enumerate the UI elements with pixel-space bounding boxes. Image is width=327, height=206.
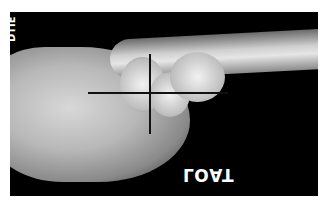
xray-panel: DTIE LOAT [10, 12, 318, 196]
crosshair-vertical [149, 54, 151, 134]
crosshair-horizontal [88, 92, 228, 94]
side-label: DTIE [10, 16, 17, 42]
position-marker: LOAT [183, 165, 235, 185]
carpal-bone [170, 52, 225, 102]
